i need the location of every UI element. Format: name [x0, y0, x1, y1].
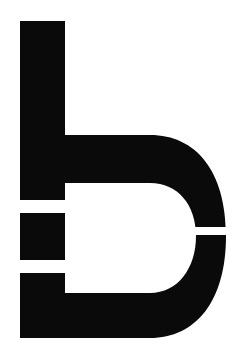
letterform-b-icon: Lowercase letter b: [0, 0, 243, 356]
bowl-slit-right: [160, 227, 243, 235]
stem-slit-upper: [20, 200, 65, 213]
artwork-canvas: Lowercase letter b: [0, 0, 243, 356]
stem-slit-lower: [20, 260, 65, 273]
